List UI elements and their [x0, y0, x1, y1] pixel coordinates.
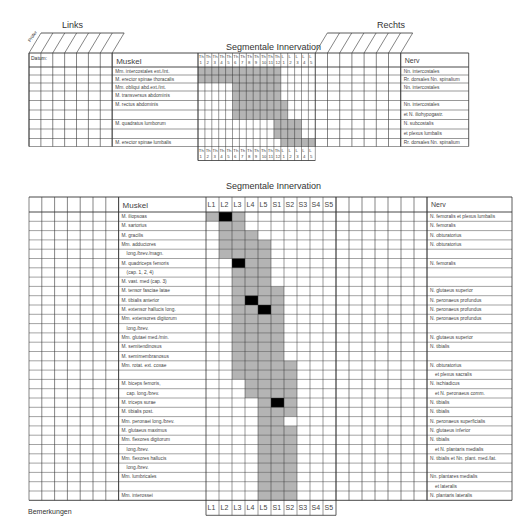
- lower-segment-footer: S5: [325, 504, 334, 511]
- upper-nerve-header: Nerv: [405, 57, 420, 64]
- lower-muscle-cell: Mm. flexores digitorum: [122, 437, 171, 442]
- upper-segment-footer: 9: [255, 154, 257, 159]
- upper-segment-footer: 5: [310, 154, 312, 159]
- lower-muscle-cell: M. tibialis anterior: [122, 298, 160, 303]
- upper-segment-footer: Th: [233, 148, 238, 153]
- upper-segment-header: L: [289, 54, 291, 59]
- upper-segment-footer: Th: [268, 148, 273, 153]
- lower-muscle-cell: long./brev./magn.: [127, 251, 164, 256]
- lower-nerve-cell: N. glutaeus superior: [430, 335, 473, 340]
- upper-muscle-cell: M. erector spinae lumbalis: [115, 140, 171, 145]
- upper-segment-header: 3: [296, 60, 298, 65]
- lower-segment-header: S2: [286, 201, 295, 208]
- lower-nerve-cell: N. tibialis et Nn. plant. med./lat.: [430, 456, 496, 461]
- upper-muscle-cell: M. rectus abdominis: [115, 102, 158, 107]
- lower-segment-header: L2: [221, 201, 229, 208]
- upper-nerve-cell: Rr. dorsales Nn. spinalium: [404, 77, 460, 82]
- upper-segment-header: Th: [233, 54, 238, 59]
- upper-segment-footer: 3: [213, 154, 215, 159]
- upper-segment-footer: 10: [262, 154, 267, 159]
- upper-segment-footer: 2: [207, 154, 209, 159]
- lower-segment-header: L3: [234, 201, 242, 208]
- lower-segment-footer: S3: [299, 504, 308, 511]
- upper-segment-header: 5: [310, 60, 312, 65]
- lower-segment-footer: L5: [260, 504, 268, 511]
- upper-segment-footer: Th: [247, 148, 252, 153]
- upper-segment-header: Th: [268, 54, 273, 59]
- lower-muscle-cell: Mm. adductores: [122, 242, 156, 247]
- upper-nerve-cell: N. subcostalis: [404, 121, 434, 126]
- upper-segment-header: Th: [254, 54, 259, 59]
- upper-segment-header: Th: [261, 54, 266, 59]
- lower-muscle-cell: M. extensor hallucis long.: [122, 307, 176, 312]
- lower-muscle-cell: M. vast. med (cap. 3): [122, 279, 167, 284]
- upper-segment-header: 12: [276, 60, 281, 65]
- lower-nerve-cell: N. femoralis: [430, 223, 456, 228]
- lower-muscle-cell: M. triceps surae: [122, 400, 156, 405]
- lower-muscle-cell: Mm. peronaei long./brev.: [122, 419, 175, 424]
- upper-segment-header: 4: [220, 60, 222, 65]
- lower-nerve-cell: N. tibialis: [430, 344, 449, 349]
- upper-segment-footer: 1: [200, 154, 202, 159]
- lower-muscle-cell: Mm. interossei: [122, 493, 153, 498]
- upper-segment-header: 5: [227, 60, 229, 65]
- lower-muscle-cell: Mm. extensores digitorum: [122, 316, 177, 321]
- lower-segment-footer: S1: [273, 504, 282, 511]
- lower-muscle-header: Muskel: [123, 201, 148, 210]
- lower-muscle-cell: M. semitendinosus: [122, 344, 162, 349]
- upper-segment-footer: Th: [240, 148, 245, 153]
- lower-nerve-cell: N. glutaeus inferior: [430, 428, 470, 433]
- upper-nerve-cell: et N. iliohypogastr.: [404, 112, 443, 117]
- lower-segment-footer: L4: [247, 504, 255, 511]
- lower-segment-footer: L2: [221, 504, 229, 511]
- upper-nerve-cell: Rr. dorsales Nn. spinalium: [404, 140, 460, 145]
- upper-segment-footer: Th: [199, 148, 204, 153]
- lower-muscle-cell: long./brev.: [127, 447, 149, 452]
- lower-nerve-cell: N. glutaeus superior: [430, 288, 473, 293]
- upper-segment-footer: Th: [254, 148, 259, 153]
- lower-nerve-header: Nerv: [431, 201, 446, 208]
- upper-segment-footer: 3: [296, 154, 298, 159]
- lower-muscle-cell: M. gracilis: [122, 233, 144, 238]
- upper-segment-footer: Th: [213, 148, 218, 153]
- upper-segment-footer: 7: [241, 154, 243, 159]
- lower-muscle-cell: Mm. flexores hallucis: [122, 456, 167, 461]
- upper-segment-footer: Th: [206, 148, 211, 153]
- upper-segment-footer: 1: [282, 154, 284, 159]
- upper-segment-header: Th: [213, 54, 218, 59]
- lower-segment-header: L4: [247, 201, 255, 208]
- upper-nerve-cell: et plexus lumbalis: [404, 131, 442, 136]
- upper-muscle-header: Muskel: [116, 57, 141, 66]
- upper-segment-header: Th: [247, 54, 252, 59]
- upper-segment-footer: 12: [276, 154, 281, 159]
- upper-segment-footer: 2: [289, 154, 291, 159]
- upper-segment-footer: 5: [227, 154, 229, 159]
- upper-segment-footer: Th: [226, 148, 231, 153]
- lower-segment-footer: L3: [234, 504, 242, 511]
- upper-segment-footer: L: [302, 148, 304, 153]
- lower-muscle-cell: cap. long./brev.: [127, 391, 159, 396]
- lower-segment-header: S4: [312, 201, 321, 208]
- lower-nerve-cell: et lateralis: [435, 484, 457, 489]
- upper-muscle-cell: M. erector spinae thoracalis: [115, 77, 174, 82]
- lower-muscle-cell: (cap. 1, 2, 4): [127, 270, 154, 275]
- upper-segment-header: Th: [206, 54, 211, 59]
- upper-segment-footer: L: [282, 148, 284, 153]
- lower-muscle-cell: M. semimembranosus: [122, 354, 169, 359]
- lower-muscle-cell: M. tibialis post.: [122, 409, 154, 414]
- upper-muscle-cell: M. transversus abdominis: [115, 93, 170, 98]
- upper-segment-header: Th: [275, 54, 280, 59]
- lower-nerve-cell: N. femoralis et plexus lumbalis: [430, 214, 495, 219]
- upper-segment-header: 2: [207, 60, 209, 65]
- upper-segment-header: 11: [269, 60, 273, 65]
- upper-segment-footer: L: [309, 148, 311, 153]
- upper-segment-header: L: [302, 54, 304, 59]
- lower-nerve-cell: N. tibialis: [430, 409, 449, 414]
- lower-nerve-cell: N. tibialis: [430, 400, 449, 405]
- upper-nerve-cell: Nn. intercostales: [404, 69, 440, 74]
- lower-nerve-cell: N. ischiadicus: [430, 381, 460, 386]
- lower-segment-header: S3: [299, 201, 308, 208]
- lower-muscle-cell: long./brev.: [127, 326, 149, 331]
- lower-segment-footer: S4: [312, 504, 321, 511]
- upper-segment-footer: Th: [275, 148, 280, 153]
